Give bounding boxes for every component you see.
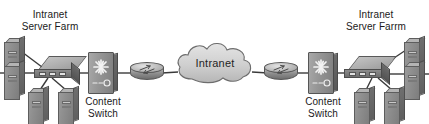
content-switch-left (88, 52, 118, 94)
lan-switch-icon (348, 56, 397, 70)
label-left-content-switch: Content Switch (76, 96, 130, 119)
intranet-cloud: Intranet (174, 38, 256, 90)
network-diagram: Intranet Server Farm (0, 0, 429, 124)
label-left-server-farm: Intranet Server Farm (8, 9, 92, 32)
router-right (264, 62, 298, 84)
content-switch-icon (308, 52, 338, 94)
router-icon (130, 62, 164, 84)
router-left (130, 62, 164, 84)
content-switch-right (308, 52, 338, 94)
lan-switch-left (34, 56, 82, 82)
router-icon (264, 62, 298, 84)
label-right-content-switch: Content Switch (296, 96, 350, 119)
label-cloud: Intranet (174, 57, 256, 69)
lan-switch-right (344, 56, 392, 82)
label-right-server-farm: Intranet Server Farrm (334, 9, 418, 32)
content-switch-icon (88, 52, 118, 94)
lan-switch-icon (38, 56, 87, 70)
